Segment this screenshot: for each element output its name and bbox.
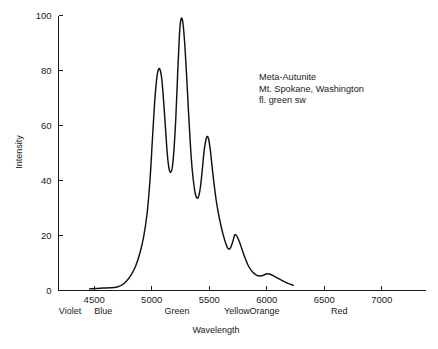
y-tick-label-40: 40	[41, 175, 52, 186]
spectrum-curve-group	[90, 18, 294, 289]
x-axis-title: Wavelength	[192, 325, 239, 335]
x-tick-label-6500: 6500	[314, 294, 335, 305]
color-band-label-blue: Blue	[94, 306, 112, 316]
y-tick-label-20: 20	[41, 230, 52, 241]
color-band-label-green: Green	[164, 306, 189, 316]
sample-annotation: Meta-AutuniteMt. Spokane, Washingtonfl. …	[259, 72, 364, 105]
annotation-line-0: Meta-Autunite	[259, 72, 316, 82]
y-tick-label-100: 100	[36, 10, 52, 21]
y-tick-label-60: 60	[41, 120, 52, 131]
color-band-label-red: Red	[331, 306, 348, 316]
x-tick-label-4500: 4500	[84, 294, 105, 305]
spectrum-curve-0	[90, 18, 294, 289]
x-tick-label-7000: 7000	[371, 294, 392, 305]
y-tick-label-80: 80	[41, 65, 52, 76]
color-band-labels: VioletBlueGreenYellowOrangeRed	[59, 306, 348, 316]
color-band-label-violet: Violet	[59, 306, 82, 316]
color-band-label-orange: Orange	[249, 306, 279, 316]
spectrum-chart: 020406080100 450050005500600065007000 Vi…	[0, 0, 438, 349]
x-axis-ticks: 450050005500600065007000	[84, 286, 393, 305]
y-axis-title: Intensity	[14, 135, 24, 169]
annotation-line-2: fl. green sw	[259, 95, 306, 105]
x-tick-label-5500: 5500	[199, 294, 220, 305]
x-tick-label-6000: 6000	[256, 294, 277, 305]
color-band-label-yellow: Yellow	[224, 306, 250, 316]
y-tick-label-0: 0	[46, 285, 51, 296]
x-tick-label-5000: 5000	[141, 294, 162, 305]
spectrum-plot: 020406080100 450050005500600065007000 Vi…	[0, 0, 438, 349]
annotation-line-1: Mt. Spokane, Washington	[259, 84, 364, 94]
